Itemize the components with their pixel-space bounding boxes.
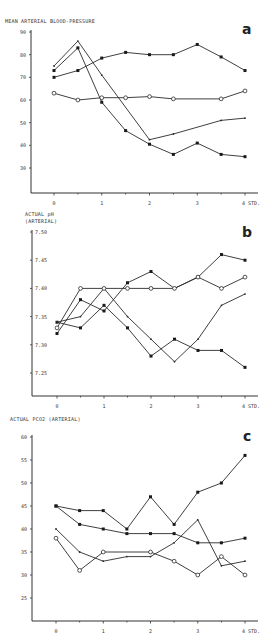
- data-point-filled: [55, 505, 58, 508]
- chart-a: 3040506070809001234 STD.a: [0, 0, 273, 205]
- data-point-filled: [53, 69, 56, 72]
- data-point-small: [77, 40, 79, 42]
- panel-actual-ph-arterial: ACTUAL pH (ARTERIAL) 7.257.307.357.407.4…: [0, 205, 273, 415]
- data-point-open: [55, 326, 59, 330]
- data-point-open: [52, 91, 56, 95]
- y-tick-label: 7.40: [35, 285, 47, 291]
- y-tick-label: 80: [20, 52, 26, 58]
- data-point-filled: [150, 355, 153, 358]
- chart-c: 253035404550556001234 STD.c: [0, 410, 273, 641]
- y-tick-label: 60: [21, 434, 27, 440]
- chart-b: 7.257.307.357.407.457.5001234 STD.b: [0, 205, 273, 415]
- data-point-filled: [220, 482, 223, 485]
- data-point-open: [220, 287, 224, 291]
- data-point-filled: [53, 76, 56, 79]
- data-point-filled: [196, 541, 199, 544]
- y-tick-label: 7.30: [35, 342, 47, 348]
- panel-letter: a: [242, 21, 251, 37]
- y-tick-label: 7.50: [35, 229, 47, 235]
- data-point-filled: [149, 495, 152, 498]
- data-series: [52, 89, 247, 102]
- data-point-filled: [148, 143, 151, 146]
- data-point-small: [197, 338, 199, 340]
- y-tick-label: 45: [21, 503, 27, 509]
- data-point-filled: [78, 523, 81, 526]
- data-point-small: [56, 321, 58, 323]
- data-point-filled: [78, 509, 81, 512]
- data-point-filled: [220, 349, 223, 352]
- data-point-filled: [220, 541, 223, 544]
- data-point-open: [149, 550, 153, 554]
- data-point-filled: [220, 55, 223, 58]
- panel-mean-arterial-blood-pressure: MEAN ARTERIAL BLOOD-PRESSURE 30405060708…: [0, 0, 273, 205]
- data-point-small: [174, 361, 176, 363]
- y-tick-label: 30: [21, 572, 27, 578]
- data-point-filled: [76, 69, 79, 72]
- data-point-small: [244, 293, 246, 295]
- data-point-small: [127, 316, 129, 318]
- data-point-small: [220, 565, 222, 567]
- data-point-open: [101, 550, 105, 554]
- y-tick-label: 90: [20, 29, 26, 35]
- data-point-open: [196, 275, 200, 279]
- x-tick-label: 2: [149, 403, 152, 409]
- data-point-filled: [244, 454, 247, 457]
- data-point-filled: [100, 101, 103, 104]
- data-point-open: [126, 287, 130, 291]
- data-series: [56, 253, 247, 335]
- y-tick-label: 7.45: [35, 257, 47, 263]
- data-point-small: [150, 556, 152, 558]
- data-point-filled: [244, 366, 247, 369]
- data-point-open: [102, 287, 106, 291]
- axes: 3040506070809001234 STD.: [20, 29, 260, 206]
- panel-letter: c: [243, 428, 251, 444]
- data-point-filled: [172, 53, 175, 56]
- data-point-filled: [220, 253, 223, 256]
- y-tick-label: 7.35: [35, 314, 47, 320]
- data-series: [56, 288, 246, 363]
- data-point-small: [53, 65, 55, 67]
- data-point-open: [243, 573, 247, 577]
- data-point-small: [221, 304, 223, 306]
- x-tick-label: 1: [102, 628, 105, 634]
- data-point-small: [197, 519, 199, 521]
- data-series: [56, 304, 247, 369]
- data-point-filled: [56, 332, 59, 335]
- data-point-open: [173, 287, 177, 291]
- y-tick-label: 7.25: [35, 370, 47, 376]
- data-point-open: [196, 573, 200, 577]
- data-point-filled: [244, 69, 247, 72]
- data-series: [55, 275, 247, 330]
- data-series: [53, 46, 247, 158]
- data-point-open: [148, 95, 152, 99]
- x-tick-label: 4 STD.: [242, 403, 260, 409]
- x-tick-label: 3: [196, 628, 199, 634]
- data-point-filled: [244, 155, 247, 158]
- data-point-filled: [102, 528, 105, 531]
- data-point-open: [243, 275, 247, 279]
- data-point-filled: [244, 259, 247, 262]
- y-tick-label: 50: [20, 120, 26, 126]
- x-tick-label: 2: [149, 628, 152, 634]
- data-point-open: [54, 536, 58, 540]
- data-point-small: [80, 316, 82, 318]
- data-point-open: [124, 96, 128, 100]
- panel-actual-pco2-arterial: ACTUAL PCO2 (ARTERIAL) 25303540455055600…: [0, 410, 273, 641]
- x-tick-label: 1: [102, 403, 105, 409]
- data-point-open: [243, 89, 247, 93]
- data-point-filled: [220, 153, 223, 156]
- data-point-filled: [76, 46, 79, 49]
- data-point-small: [172, 133, 174, 135]
- data-point-filled: [149, 532, 152, 535]
- data-point-small: [220, 120, 222, 122]
- data-point-small: [126, 556, 128, 558]
- y-tick-label: 40: [21, 526, 27, 532]
- data-point-filled: [196, 491, 199, 494]
- data-point-small: [150, 338, 152, 340]
- y-tick-label: 25: [21, 595, 27, 601]
- y-tick-label: 30: [20, 165, 26, 171]
- data-point-filled: [124, 51, 127, 54]
- y-tick-label: 35: [21, 549, 27, 555]
- data-point-open: [79, 287, 83, 291]
- data-point-open: [171, 97, 175, 101]
